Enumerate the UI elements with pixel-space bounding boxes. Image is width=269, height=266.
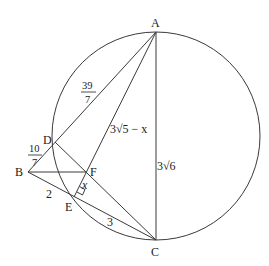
point-label-C: C — [151, 245, 159, 259]
point-label-A: A — [151, 16, 160, 30]
segment-BC — [28, 172, 156, 240]
point-label-D: D — [43, 133, 52, 147]
geometry-diagram: A C B D E F 39 7 10 7 3√5 − x 3√6 2 3 x — [0, 0, 269, 266]
measure-BE: 2 — [46, 187, 52, 201]
measure-EF: x — [81, 178, 88, 192]
point-label-E: E — [65, 200, 72, 214]
svg-text:39: 39 — [82, 80, 93, 91]
measure-AC: 3√6 — [157, 159, 176, 173]
measure-BD: 10 7 — [28, 143, 42, 168]
measure-AD: 39 7 — [81, 80, 96, 105]
svg-text:10: 10 — [29, 143, 40, 154]
measure-AF: 3√5 − x — [110, 122, 147, 136]
svg-text:7: 7 — [32, 157, 37, 168]
point-label-B: B — [15, 165, 23, 179]
svg-text:7: 7 — [85, 94, 90, 105]
point-label-F: F — [90, 165, 97, 179]
segment-DC — [55, 142, 156, 240]
measure-EC: 3 — [107, 215, 113, 229]
segment-AB — [28, 32, 156, 172]
